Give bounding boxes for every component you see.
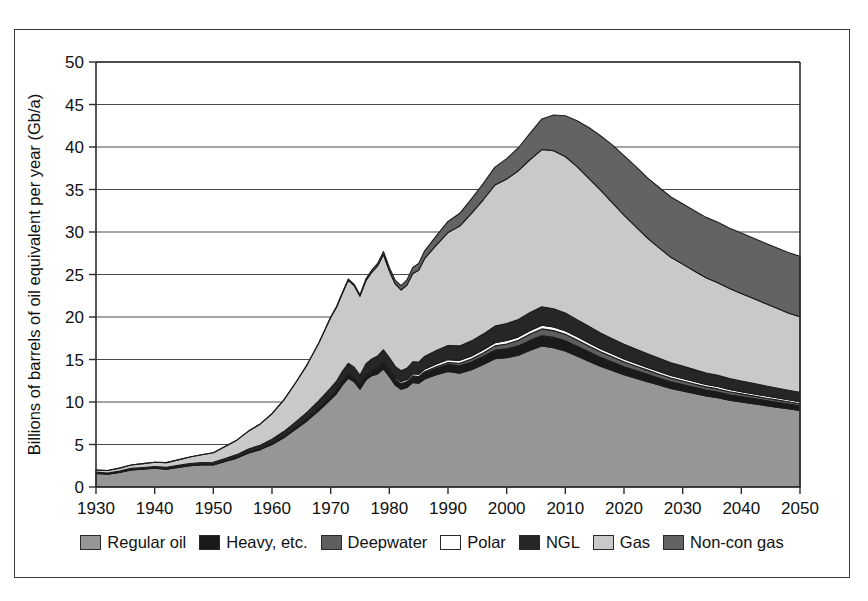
legend-item-label: Gas <box>620 533 650 552</box>
y-tick-label: 30 <box>65 223 84 242</box>
x-tick-label: 1960 <box>253 499 291 518</box>
legend-item-gas[interactable]: Gas <box>593 533 650 552</box>
y-axis-title-text: Billions of barrels of oil equivalent pe… <box>25 94 43 455</box>
legend-item-label: Deepwater <box>348 533 428 552</box>
legend-item-regular-oil[interactable]: Regular oil <box>80 533 186 552</box>
x-tick-label: 1930 <box>77 499 115 518</box>
legend-swatch-icon <box>80 535 101 550</box>
stacked-area-chart: 05101520253035404550 1930194019501960197… <box>0 0 868 601</box>
legend-item-polar[interactable]: Polar <box>440 533 506 552</box>
legend-swatch-icon <box>440 535 461 550</box>
legend-item-label: Non-con gas <box>690 533 784 552</box>
legend-item-heavy-etc[interactable]: Heavy, etc. <box>199 533 307 552</box>
y-tick-label: 5 <box>75 436 84 455</box>
x-tick-label: 1980 <box>370 499 408 518</box>
y-tick-label: 10 <box>65 393 84 412</box>
x-tick-label: 2010 <box>546 499 584 518</box>
x-tick-label: 1950 <box>194 499 232 518</box>
x-tick-label: 1940 <box>136 499 174 518</box>
legend-swatch-icon <box>519 535 540 550</box>
y-tick-label: 15 <box>65 351 84 370</box>
x-tick-label: 2040 <box>722 499 760 518</box>
legend-swatch-icon <box>199 535 220 550</box>
legend-swatch-icon <box>663 535 684 550</box>
y-tick-label: 40 <box>65 138 84 157</box>
y-tick-label: 50 <box>65 53 84 72</box>
y-tick-label: 20 <box>65 308 84 327</box>
x-tick-label: 2000 <box>488 499 526 518</box>
legend-swatch-icon <box>593 535 614 550</box>
legend-item-label: Polar <box>467 533 506 552</box>
y-tick-label: 45 <box>65 96 84 115</box>
y-tick-label: 35 <box>65 181 84 200</box>
legend-item-label: Heavy, etc. <box>226 533 307 552</box>
legend-item-non-con-gas[interactable]: Non-con gas <box>663 533 784 552</box>
x-tick-label: 2020 <box>605 499 643 518</box>
chart-legend: Regular oilHeavy, etc.DeepwaterPolarNGLG… <box>14 528 850 556</box>
legend-item-label: Regular oil <box>107 533 186 552</box>
x-tick-label: 1990 <box>429 499 467 518</box>
y-tick-labels: 05101520253035404550 <box>65 53 84 497</box>
legend-item-label: NGL <box>546 533 580 552</box>
x-tick-label: 1970 <box>312 499 350 518</box>
y-tick-label: 0 <box>75 478 84 497</box>
x-tick-label: 2050 <box>781 499 819 518</box>
x-tick-labels: 1930194019501960197019801990200020102020… <box>77 499 819 518</box>
y-axis-title: Billions of barrels of oil equivalent pe… <box>25 94 43 455</box>
y-tick-label: 25 <box>65 266 84 285</box>
area-series-group <box>96 115 800 487</box>
chart-svg: 05101520253035404550 1930194019501960197… <box>0 0 868 601</box>
legend-swatch-icon <box>321 535 342 550</box>
legend-item-ngl[interactable]: NGL <box>519 533 580 552</box>
legend-item-deepwater[interactable]: Deepwater <box>321 533 428 552</box>
x-tick-label: 2030 <box>664 499 702 518</box>
